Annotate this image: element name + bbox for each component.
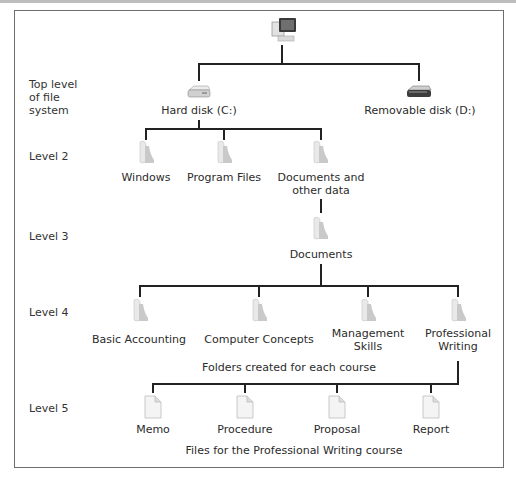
connector-line xyxy=(320,264,322,287)
level-label-5: Level 5 xyxy=(29,402,69,415)
folder-label-professional-writing: Professional Writing xyxy=(425,327,491,353)
connector-line xyxy=(244,383,246,393)
files-caption: Files for the Professional Writing cours… xyxy=(186,444,403,457)
file-label-proposal: Proposal xyxy=(314,423,361,436)
connector-line xyxy=(320,128,322,140)
level-label-3: Level 3 xyxy=(29,230,69,243)
folder-icon[interactable] xyxy=(310,140,332,166)
hard-disk-icon[interactable] xyxy=(186,84,212,100)
level-label-2: Level 2 xyxy=(29,150,69,163)
connector-line xyxy=(139,285,459,287)
connector-line xyxy=(223,128,225,140)
level-label-4: Level 4 xyxy=(29,306,69,319)
removable-disk-label: Removable disk (D:) xyxy=(364,104,475,117)
top-edge xyxy=(0,0,516,3)
folder-icon[interactable] xyxy=(130,298,152,324)
level-label-top-line2: of file xyxy=(29,91,77,104)
folder-icon[interactable] xyxy=(358,298,380,324)
file-label-report: Report xyxy=(413,423,449,436)
connector-line xyxy=(198,63,200,81)
folder-icon[interactable] xyxy=(136,140,158,166)
folder-label-documents-and-other-data: Documents and other data xyxy=(278,171,365,197)
connector-line xyxy=(457,285,459,297)
label-line: Management xyxy=(332,327,404,340)
folder-icon[interactable] xyxy=(249,298,271,324)
document-file-icon[interactable] xyxy=(143,395,163,419)
connector-line xyxy=(281,45,283,65)
connector-line xyxy=(198,63,420,65)
label-line: Skills xyxy=(332,340,404,353)
folder-label-program-files: Program Files xyxy=(187,171,261,184)
folder-label-computer-concepts: Computer Concepts xyxy=(204,333,313,346)
connector-line xyxy=(367,285,369,297)
connector-line xyxy=(145,128,322,130)
file-label-procedure: Procedure xyxy=(217,423,272,436)
connector-line xyxy=(336,383,338,393)
file-label-memo: Memo xyxy=(136,423,170,436)
label-line: Writing xyxy=(425,340,491,353)
label-line: Documents and xyxy=(278,171,365,184)
connector-line xyxy=(139,285,141,297)
course-folders-caption: Folders created for each course xyxy=(202,361,376,374)
removable-disk-icon[interactable] xyxy=(405,84,433,100)
document-file-icon[interactable] xyxy=(421,395,441,419)
connector-line xyxy=(457,361,459,385)
connector-line xyxy=(152,383,154,393)
level-label-top: Top level of file system xyxy=(29,78,77,117)
label-line: Professional xyxy=(425,327,491,340)
hard-disk-label: Hard disk (C:) xyxy=(161,104,236,117)
connector-line xyxy=(430,383,432,393)
folder-label-management-skills: Management Skills xyxy=(332,327,404,353)
folder-label-basic-accounting: Basic Accounting xyxy=(92,333,186,346)
folder-icon[interactable] xyxy=(448,298,470,324)
folder-icon[interactable] xyxy=(214,140,236,166)
connector-line xyxy=(320,199,322,213)
label-line: other data xyxy=(278,184,365,197)
connector-line xyxy=(145,128,147,140)
computer-icon[interactable] xyxy=(270,16,298,44)
level-label-top-line3: system xyxy=(29,104,77,117)
folder-label-windows: Windows xyxy=(121,171,170,184)
connector-line xyxy=(258,285,260,297)
document-file-icon[interactable] xyxy=(327,395,347,419)
folder-icon[interactable] xyxy=(310,216,332,242)
document-file-icon[interactable] xyxy=(235,395,255,419)
connector-line xyxy=(152,383,459,385)
connector-line xyxy=(418,63,420,81)
level-label-top-line1: Top level xyxy=(29,78,77,91)
folder-label-documents: Documents xyxy=(290,248,353,261)
